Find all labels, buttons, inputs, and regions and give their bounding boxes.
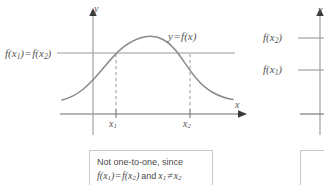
level-label-sub2: 2 (44, 52, 48, 61)
tick-label-x2: x2 (183, 119, 191, 130)
curve-equation-label: y=f(x) (168, 31, 196, 42)
curve-label-arg: x (188, 30, 193, 42)
level-value-label: f(x1)=f(x2) (5, 48, 51, 60)
caption-fn-1: f (97, 170, 100, 181)
x-axis-label: x (235, 100, 239, 110)
right-fx1-sub: 1 (275, 68, 279, 77)
caption-box: Not one-to-one, since f(x1)=f(x2)andx1≠x… (89, 150, 213, 185)
right-panel-graphics (298, 8, 324, 135)
caption-line-1: Not one-to-one, since (97, 156, 205, 169)
figure-root: f(x1)=f(x2) y=f(x) y x x1 x2 f(x2) f(x1)… (0, 0, 324, 185)
right-value-label-fx2: f(x2) (263, 32, 282, 44)
caption-box-right (300, 150, 324, 185)
level-label-fn2: f (32, 47, 35, 59)
tick-label-x1: x1 (109, 119, 117, 130)
caption-fn-2: f (122, 170, 125, 181)
caption-conj: and (139, 171, 158, 181)
left-panel-graphics (57, 8, 247, 135)
tick-x1-sub: 1 (113, 122, 116, 129)
function-curve (62, 36, 233, 100)
right-y-axis-label: y (318, 5, 322, 15)
level-label-fn: f (5, 47, 8, 59)
caption-sub1: 1 (108, 174, 111, 181)
caption-neq: ≠ (166, 170, 174, 181)
curve-label-op: = (173, 30, 181, 42)
right-fx2-sub: 2 (275, 36, 279, 45)
y-axis-label: y (94, 4, 98, 14)
right-value-label-fx1: f(x1) (263, 64, 282, 76)
tick-x2-sub: 2 (187, 122, 190, 129)
x-axis-arrowhead (238, 110, 247, 118)
caption-sub2: 2 (133, 174, 136, 181)
caption-line-2: f(x1)=f(x2)andx1≠x2 (97, 169, 205, 184)
right-fx1-fn: f (263, 63, 266, 75)
level-label-sub1: 1 (17, 52, 21, 61)
caption-eq: = (114, 170, 122, 181)
caption-sub4: 2 (178, 174, 181, 181)
curve-label-fn: f (181, 30, 184, 42)
right-fx2-fn: f (263, 31, 266, 43)
